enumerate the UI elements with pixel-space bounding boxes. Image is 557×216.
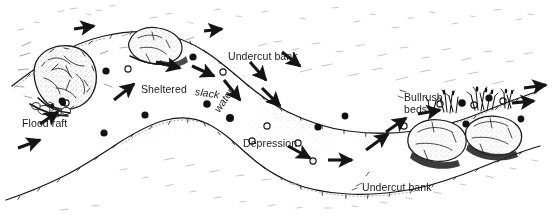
flow-direction-arrow: [262, 88, 280, 106]
flow-direction-arrow: [74, 26, 94, 29]
open-circle-marker: [500, 98, 506, 104]
open-circle-marker: [249, 138, 255, 144]
solid-dot-marker: [314, 123, 321, 130]
background-flecks: [18, 6, 538, 211]
solid-dot-marker: [458, 99, 466, 107]
flow-direction-arrow: [282, 52, 300, 66]
solid-dot-marker: [141, 111, 148, 118]
solid-dot-marker: [342, 113, 349, 120]
solid-dot-marker: [485, 94, 492, 101]
solid-dot-marker: [226, 114, 234, 122]
flow-direction-arrow: [250, 62, 266, 80]
solid-dot-marker: [102, 67, 109, 74]
open-circle-marker: [310, 158, 316, 164]
river-habitat-diagram: Undercut bank Sheltered slack water Floo…: [0, 0, 557, 216]
diagram-canvas: [0, 0, 557, 216]
solid-dot-marker: [462, 120, 469, 127]
flow-direction-arrow: [224, 80, 240, 100]
flow-direction-arrow: [114, 84, 134, 100]
flow-direction-arrow: [418, 110, 440, 114]
lower-right-boulder-b: [466, 116, 522, 160]
solid-dot-marker: [100, 129, 107, 136]
solid-dot-marker: [518, 116, 525, 123]
solid-dot-marker: [189, 53, 196, 60]
open-circle-marker: [125, 66, 131, 72]
flow-direction-arrow: [386, 118, 406, 132]
flow-direction-arrow: [18, 140, 40, 148]
lower-right-boulder-a: [408, 120, 466, 169]
flow-direction-arrow: [204, 29, 222, 31]
flow-direction-arrow: [524, 85, 546, 88]
open-circle-marker: [220, 69, 226, 75]
open-circle-marker: [401, 123, 407, 129]
solid-dot-marker: [203, 100, 211, 108]
flow-direction-arrow: [512, 101, 534, 103]
